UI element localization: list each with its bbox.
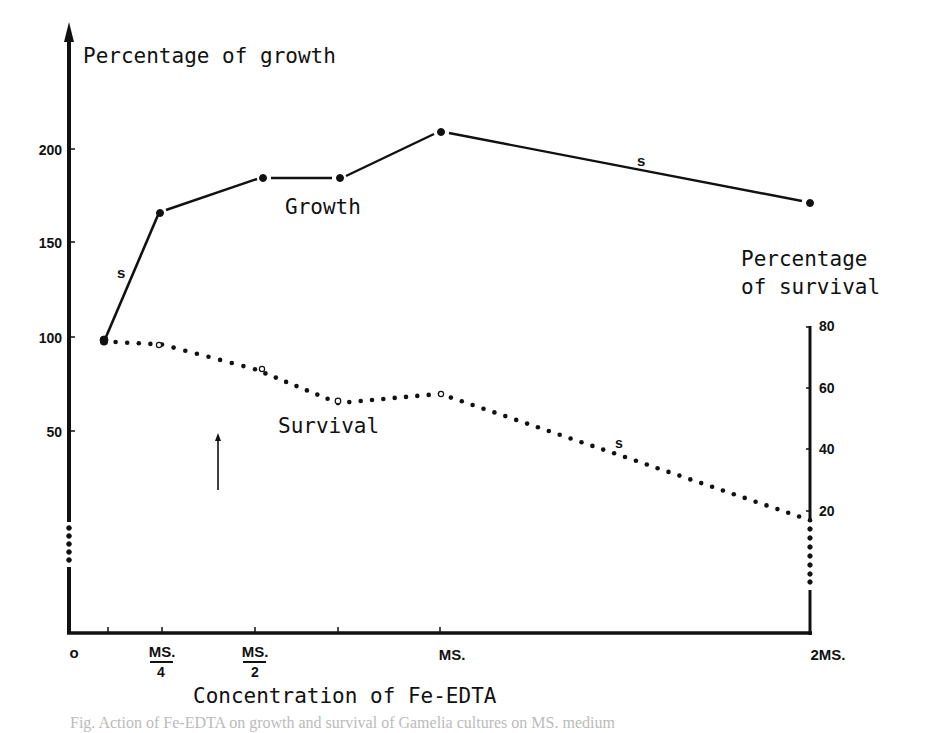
survival-point bbox=[259, 366, 264, 371]
survival-point bbox=[156, 342, 161, 347]
axis-break-dots bbox=[808, 527, 812, 584]
growth-series-label: Growth bbox=[285, 195, 361, 219]
right-y-axis bbox=[806, 326, 812, 635]
left-y-axis bbox=[64, 22, 75, 634]
svg-text:MS.: MS. bbox=[149, 643, 176, 660]
growth-point bbox=[438, 129, 445, 136]
survival-markers bbox=[156, 342, 443, 403]
y-axis-title: Percentage of growth bbox=[83, 44, 336, 68]
chart: 200 150 100 50 Percentage of growth o MS… bbox=[0, 0, 931, 733]
growth-point bbox=[157, 210, 164, 217]
svg-text:MS.: MS. bbox=[242, 643, 269, 660]
growth-point bbox=[260, 175, 267, 182]
growth-point bbox=[807, 200, 814, 207]
growth-point bbox=[337, 175, 344, 182]
y-tick-100: 100 bbox=[39, 330, 63, 346]
y2-tick-60: 60 bbox=[819, 380, 835, 396]
left-y-tick-labels: 200 150 100 50 bbox=[39, 142, 63, 440]
x-tick-origin: o bbox=[69, 644, 78, 661]
svg-text:Percentage: Percentage bbox=[741, 247, 867, 271]
survival-point bbox=[335, 398, 341, 404]
x-tick-ms: MS. bbox=[439, 646, 466, 663]
survival-sig-label: s bbox=[615, 435, 623, 451]
x-tick-ms-quarter: MS. 4 bbox=[149, 643, 176, 680]
survival-point bbox=[438, 391, 443, 396]
up-arrow-icon bbox=[215, 433, 221, 490]
axis-break-dots bbox=[67, 526, 72, 563]
survival-series-label: Survival bbox=[278, 414, 379, 438]
y-tick-150: 150 bbox=[39, 235, 63, 251]
y-tick-200: 200 bbox=[39, 142, 63, 158]
svg-text:2: 2 bbox=[251, 664, 259, 680]
right-y-tick-labels: 80 60 40 20 bbox=[819, 318, 835, 519]
x-tick-labels: o MS. 4 MS. 2 MS. 2MS. bbox=[69, 643, 845, 680]
figure-caption: Fig. Action of Fe-EDTA on growth and sur… bbox=[70, 714, 930, 733]
svg-text:4: 4 bbox=[157, 664, 165, 680]
growth-series bbox=[100, 129, 814, 345]
x-tick-2ms: 2MS. bbox=[810, 646, 845, 663]
y-tick-50: 50 bbox=[46, 424, 62, 440]
y2-tick-80: 80 bbox=[819, 318, 835, 334]
growth-sig-label-1: s bbox=[117, 264, 125, 281]
x-axis bbox=[67, 627, 812, 633]
x-tick-ms-half: MS. 2 bbox=[242, 643, 269, 680]
y2-axis-title: Percentage of survival bbox=[741, 247, 880, 299]
x-axis-title: Concentration of Fe-EDTA bbox=[193, 684, 497, 708]
y2-tick-20: 20 bbox=[819, 503, 835, 519]
survival-series bbox=[100, 337, 812, 522]
y2-tick-40: 40 bbox=[819, 441, 835, 457]
growth-sig-label-2: s bbox=[637, 152, 645, 169]
svg-text:of survival: of survival bbox=[741, 275, 880, 299]
